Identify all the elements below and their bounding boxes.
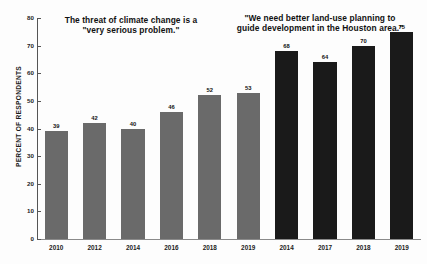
y-axis-tick-label: 30 [12, 153, 34, 159]
x-axis-tick-label: 2014 [115, 244, 150, 251]
bar[interactable] [352, 46, 375, 239]
y-axis-tick-label: 20 [12, 181, 34, 187]
x-axis-line [37, 239, 421, 240]
bar[interactable] [390, 32, 413, 239]
bar-group[interactable]: 46 [160, 18, 183, 239]
bar-group[interactable]: 75 [390, 18, 413, 239]
plot-area: 39424046525368647075 [37, 18, 421, 239]
bottom-caption [0, 256, 427, 264]
bar[interactable] [198, 95, 221, 239]
y-axis-tick-label: 50 [12, 98, 34, 104]
y-axis-tick-label: 60 [12, 70, 34, 76]
bar[interactable] [160, 112, 183, 239]
bar[interactable] [45, 131, 68, 239]
x-axis-tick-label: 2017 [307, 244, 342, 251]
y-axis-title: PERCENT OF RESPONDENTS [15, 37, 22, 197]
bar[interactable] [121, 129, 144, 240]
bar-value-label: 68 [275, 43, 298, 49]
bar-group[interactable]: 64 [313, 18, 336, 239]
x-axis-tick-label: 2019 [231, 244, 266, 251]
y-axis-tick-label: 0 [12, 236, 34, 242]
x-axis-tick-label: 2018 [192, 244, 227, 251]
bar-group[interactable]: 40 [121, 18, 144, 239]
bar-value-label: 42 [83, 115, 106, 121]
bar-value-label: 75 [390, 24, 413, 30]
bar[interactable] [83, 123, 106, 239]
bar-value-label: 40 [121, 121, 144, 127]
bar-value-label: 46 [160, 104, 183, 110]
y-axis-tick-label: 80 [12, 15, 34, 21]
bar-value-label: 70 [352, 38, 375, 44]
bar-value-label: 39 [45, 123, 68, 129]
bar-group[interactable]: 42 [83, 18, 106, 239]
x-axis-tick-label: 2018 [346, 244, 381, 251]
bar-group[interactable]: 53 [237, 18, 260, 239]
x-axis-tick-label: 2014 [269, 244, 304, 251]
bar-value-label: 53 [237, 85, 260, 91]
bar-value-label: 64 [313, 54, 336, 60]
bar[interactable] [275, 51, 298, 239]
y-axis-tick [37, 239, 41, 240]
x-axis-tick-label: 2012 [77, 244, 112, 251]
x-axis-tick-label: 2019 [384, 244, 419, 251]
y-axis-tick-label: 40 [12, 126, 34, 132]
bar[interactable] [237, 93, 260, 239]
bar-group[interactable]: 52 [198, 18, 221, 239]
bar-group[interactable]: 68 [275, 18, 298, 239]
y-axis-tick-label: 10 [12, 208, 34, 214]
y-axis-tick-label: 70 [12, 43, 34, 49]
x-axis-tick-label: 2010 [39, 244, 74, 251]
bar-group[interactable]: 70 [352, 18, 375, 239]
bar-group[interactable]: 39 [45, 18, 68, 239]
x-axis-tick-label: 2016 [154, 244, 189, 251]
bar-chart: The threat of climate change is a "very … [0, 0, 427, 264]
bar[interactable] [313, 62, 336, 239]
bar-value-label: 52 [198, 87, 221, 93]
